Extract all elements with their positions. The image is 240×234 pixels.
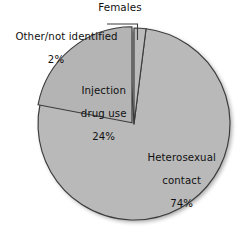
chart-title: Females [0,2,240,14]
slice-label-hetero-line2: contact [162,175,201,186]
slice-label-hetero-line1: Heterosexual [147,152,216,163]
slice-label-injection-drug-use: Injection drug use 24% [58,73,136,154]
slice-label-injection-percent: 24% [92,131,115,142]
slice-label-other-name: Other/not identified [15,31,117,42]
pie-chart-figure: Females Other/not identified 2% Injectio… [0,0,240,234]
slice-label-other-percent: 2% [2,54,110,66]
slice-label-injection-line1: Injection [81,85,126,96]
slice-label-injection-line2: drug use [81,108,127,119]
slice-label-heterosexual-contact: Heterosexual contact 74% [128,140,222,221]
slice-label-hetero-percent: 74% [170,198,193,209]
